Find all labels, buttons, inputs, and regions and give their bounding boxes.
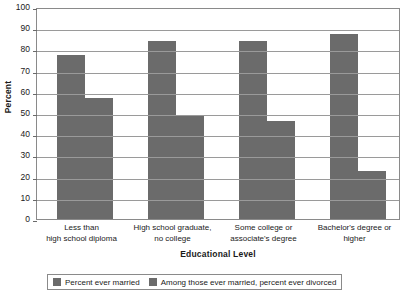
y-axis-tick-label: 90	[0, 24, 30, 33]
y-axis-tickmark	[33, 51, 37, 52]
gridline	[37, 115, 399, 116]
x-axis-category-label-line: no college	[127, 234, 218, 245]
bars-layer	[37, 9, 399, 219]
gridline	[37, 73, 399, 74]
x-axis-category-label: Some college orassociate's degree	[218, 223, 309, 244]
x-axis-category-label: Less thanhigh school diploma	[36, 223, 127, 244]
bar-group	[37, 9, 128, 219]
legend-swatch-icon	[53, 278, 61, 286]
x-axis-category-label-line: higher	[309, 234, 400, 245]
y-axis-tick-label: 0	[0, 215, 30, 224]
gridline	[37, 30, 399, 31]
y-axis-tick-label: 20	[0, 173, 30, 182]
x-axis-category-label-line: Bachelor's degree or	[309, 223, 400, 234]
y-axis-tick-labels: 0102030405060708090100	[0, 0, 34, 294]
y-axis-tickmark	[33, 115, 37, 116]
x-axis-category-label: Bachelor's degree orhigher	[309, 223, 400, 244]
y-axis-tickmark	[33, 221, 37, 222]
gridline	[37, 179, 399, 180]
y-axis-tickmark	[33, 136, 37, 137]
y-axis-tick-label: 10	[0, 194, 30, 203]
x-axis-category-label-line: associate's degree	[218, 234, 309, 245]
y-axis-tick-label: 60	[0, 88, 30, 97]
bar-group	[219, 9, 310, 219]
y-axis-tick-label: 30	[0, 151, 30, 160]
gridline	[37, 136, 399, 137]
y-axis-tickmark	[33, 9, 37, 10]
bar	[85, 98, 113, 219]
y-axis-tick-label: 70	[0, 67, 30, 76]
chart-legend: Percent ever marriedAmong those ever mar…	[47, 274, 342, 290]
bar	[176, 116, 204, 219]
gridline	[37, 94, 399, 95]
bar	[239, 41, 267, 219]
y-axis-tick-label: 80	[0, 45, 30, 54]
x-axis-category-label-line: Some college or	[218, 223, 309, 234]
x-axis-title: Educational Level	[36, 249, 400, 259]
bar	[148, 41, 176, 219]
y-axis-tickmark	[33, 200, 37, 201]
bar-group	[310, 9, 401, 219]
y-axis-tick-label: 100	[0, 3, 30, 12]
y-axis-tickmark	[33, 73, 37, 74]
y-axis-tick-label: 50	[0, 109, 30, 118]
legend-label: Among those ever married, percent ever d…	[161, 278, 337, 287]
bar	[330, 34, 358, 220]
x-axis-category-labels: Less thanhigh school diplomaHigh school …	[36, 223, 400, 249]
y-axis-tickmark	[33, 94, 37, 95]
legend-label: Percent ever married	[65, 278, 140, 287]
x-axis-category-label-line: Less than	[36, 223, 127, 234]
legend-item: Percent ever married	[53, 278, 140, 287]
legend-swatch-icon	[149, 278, 157, 286]
x-axis-category-label-line: high school diploma	[36, 234, 127, 245]
y-axis-tickmark	[33, 157, 37, 158]
plot-area	[36, 8, 400, 220]
gridline	[37, 200, 399, 201]
gridline	[37, 157, 399, 158]
y-axis-tickmark	[33, 179, 37, 180]
x-axis-category-label-line: High school graduate,	[127, 223, 218, 234]
gridline	[37, 51, 399, 52]
x-axis-category-label: High school graduate,no college	[127, 223, 218, 244]
bar-chart-figure: Percent 0102030405060708090100 Less than…	[0, 0, 415, 294]
legend-item: Among those ever married, percent ever d…	[149, 278, 337, 287]
bar-group	[128, 9, 219, 219]
y-axis-tick-label: 40	[0, 130, 30, 139]
y-axis-tickmark	[33, 30, 37, 31]
